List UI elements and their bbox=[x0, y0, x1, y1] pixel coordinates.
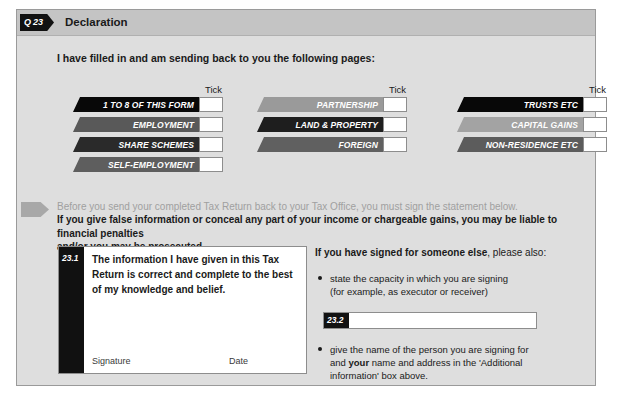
tick-rows-middle: PARTNERSHIPLAND & PROPERTYFOREIGN bbox=[257, 97, 409, 152]
bullet-dot-icon bbox=[318, 347, 322, 351]
tick-checkbox[interactable] bbox=[383, 97, 407, 112]
tick-row-banner: PARTNERSHIP bbox=[257, 97, 383, 112]
declaration-box-number-tab: 23.1 bbox=[59, 247, 84, 373]
tick-checkbox[interactable] bbox=[199, 137, 223, 152]
tick-row: CAPITAL GAINS bbox=[457, 117, 609, 132]
tick-row-label: NON-RESIDENCE ETC bbox=[486, 140, 583, 150]
tick-row-banner: 1 TO 8 OF THIS FORM bbox=[73, 97, 199, 112]
tick-header-left: Tick bbox=[73, 84, 225, 97]
bullet-item-name-address: give the name of the person you are sign… bbox=[315, 343, 590, 382]
right-panel-heading-bold: If you have signed for someone else bbox=[315, 247, 487, 258]
question-number-tag: Q 23 bbox=[20, 14, 54, 31]
bullet-name-line2-post: name and address in the 'Additional bbox=[369, 357, 522, 368]
tick-row: NON-RESIDENCE ETC bbox=[457, 137, 609, 152]
tick-column-middle: Tick PARTNERSHIPLAND & PROPERTYFOREIGN bbox=[257, 84, 409, 157]
tick-row: EMPLOYMENT bbox=[73, 117, 225, 132]
intro-instruction-text: I have filled in and am sending back to … bbox=[57, 52, 375, 64]
declaration-statement-text: The information I have given in this Tax… bbox=[92, 252, 300, 297]
bullet-capacity-line1: state the capacity in which you are sign… bbox=[330, 272, 590, 285]
tick-checkbox[interactable] bbox=[199, 117, 223, 132]
tick-row: LAND & PROPERTY bbox=[257, 117, 409, 132]
tick-checkbox[interactable] bbox=[583, 137, 607, 152]
tax-return-declaration-form: Q 23 Declaration I have filled in and am… bbox=[16, 9, 596, 386]
bullet-name-line2-bold: your bbox=[349, 357, 370, 368]
page-title: Declaration bbox=[65, 14, 128, 31]
tick-row-banner: TRUSTS ETC bbox=[457, 97, 583, 112]
capacity-input[interactable] bbox=[349, 313, 536, 328]
bullet-name-line2-pre: and bbox=[330, 357, 349, 368]
tick-row-banner: LAND & PROPERTY bbox=[257, 117, 383, 132]
declaration-signature-box[interactable]: 23.1 The information I have given in thi… bbox=[58, 246, 307, 374]
tick-checkbox[interactable] bbox=[199, 97, 223, 112]
tick-row-label: 1 TO 8 OF THIS FORM bbox=[103, 100, 199, 110]
right-panel-heading: If you have signed for someone else, ple… bbox=[315, 246, 590, 260]
tick-row: SHARE SCHEMES bbox=[73, 137, 225, 152]
tick-row-banner: SHARE SCHEMES bbox=[73, 137, 199, 152]
tick-rows-left: 1 TO 8 OF THIS FORMEMPLOYMENTSHARE SCHEM… bbox=[73, 97, 225, 172]
tick-row-banner: NON-RESIDENCE ETC bbox=[457, 137, 583, 152]
tick-checkbox[interactable] bbox=[583, 97, 607, 112]
tick-row: PARTNERSHIP bbox=[257, 97, 409, 112]
bullet-name-line1: give the name of the person you are sign… bbox=[330, 343, 590, 356]
right-panel-heading-rest: , please also: bbox=[487, 247, 546, 258]
tick-row-banner: CAPITAL GAINS bbox=[457, 117, 583, 132]
tick-rows-right: TRUSTS ETCCAPITAL GAINSNON-RESIDENCE ETC bbox=[457, 97, 609, 152]
bullet-item-capacity: state the capacity in which you are sign… bbox=[315, 272, 590, 298]
bullet-name-line3: information' box above. bbox=[330, 369, 590, 382]
signature-label: Signature bbox=[92, 356, 131, 366]
tick-row-label: LAND & PROPERTY bbox=[295, 120, 383, 130]
tick-row-label: SHARE SCHEMES bbox=[119, 140, 199, 150]
tick-row-banner: FOREIGN bbox=[257, 137, 383, 152]
warning-light-text: Before you send your completed Tax Retur… bbox=[57, 200, 587, 213]
tick-header-right: Tick bbox=[457, 84, 609, 97]
tick-column-right: Tick TRUSTS ETCCAPITAL GAINSNON-RESIDENC… bbox=[457, 84, 609, 157]
tick-row: FOREIGN bbox=[257, 137, 409, 152]
field-232-number: 23.2 bbox=[324, 313, 349, 328]
tick-row-label: TRUSTS ETC bbox=[524, 100, 583, 110]
date-label: Date bbox=[229, 356, 248, 366]
tick-row: TRUSTS ETC bbox=[457, 97, 609, 112]
tick-row-label: CAPITAL GAINS bbox=[511, 120, 583, 130]
tick-column-left: Tick 1 TO 8 OF THIS FORMEMPLOYMENTSHARE … bbox=[73, 84, 225, 177]
tick-row: 1 TO 8 OF THIS FORM bbox=[73, 97, 225, 112]
tick-row-label: EMPLOYMENT bbox=[133, 120, 199, 130]
declaration-box-number: 23.1 bbox=[62, 253, 79, 263]
tick-row-label: PARTNERSHIP bbox=[317, 100, 383, 110]
tick-checkbox[interactable] bbox=[199, 157, 223, 172]
warning-arrow-icon bbox=[21, 202, 49, 217]
warning-bold-text-line1: If you give false information or conceal… bbox=[57, 213, 587, 240]
bullet-capacity-line2: (for example, as executor or receiver) bbox=[330, 285, 590, 298]
tick-checkbox[interactable] bbox=[383, 117, 407, 132]
bullet-dot-icon bbox=[318, 276, 322, 280]
tick-checkbox[interactable] bbox=[383, 137, 407, 152]
capacity-field-232[interactable]: 23.2 bbox=[323, 312, 537, 329]
tick-row-banner: EMPLOYMENT bbox=[73, 117, 199, 132]
tick-checkbox[interactable] bbox=[583, 117, 607, 132]
section-header-band: Q 23 Declaration bbox=[17, 10, 595, 36]
tick-row-label: FOREIGN bbox=[339, 140, 383, 150]
bullet-name-line2: and your name and address in the 'Additi… bbox=[330, 356, 590, 369]
tick-row-label: SELF-EMPLOYMENT bbox=[108, 160, 199, 170]
tick-row: SELF-EMPLOYMENT bbox=[73, 157, 225, 172]
tick-header-middle: Tick bbox=[257, 84, 409, 97]
signed-for-someone-else-panel: If you have signed for someone else, ple… bbox=[315, 246, 590, 382]
tick-row-banner: SELF-EMPLOYMENT bbox=[73, 157, 199, 172]
